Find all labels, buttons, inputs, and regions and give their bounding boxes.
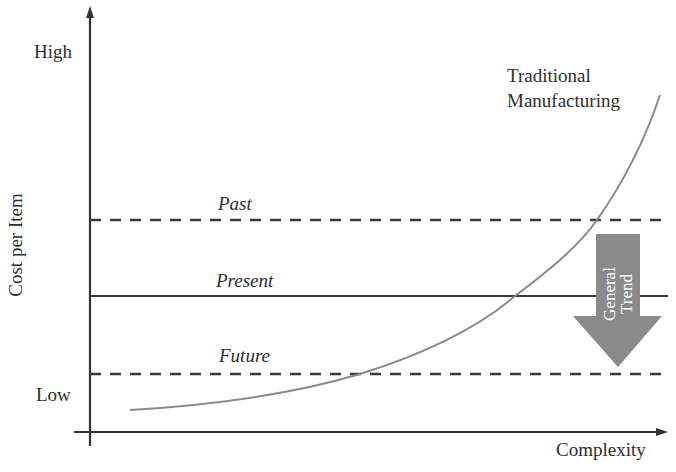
present-label: Present [216,271,273,290]
y-axis-arrow-icon [86,6,94,18]
y-axis-title: Cost per Item [4,170,28,320]
general-trend-label: GeneralTrend [595,236,641,352]
y-low-label: Low [36,385,71,404]
future-label: Future [219,346,270,365]
trend-line2: Trend [618,267,635,321]
curve-label-line1: Traditional [507,66,591,85]
trend-line1: General [601,267,618,321]
y-axis-title-text: Cost per Item [5,193,27,296]
y-high-label: High [34,42,72,61]
traditional-manufacturing-curve [130,95,660,410]
x-axis-title: Complexity [556,440,646,459]
x-axis-arrow-icon [656,428,668,436]
curve-label-line2: Manufacturing [507,91,620,110]
past-label: Past [218,194,252,213]
